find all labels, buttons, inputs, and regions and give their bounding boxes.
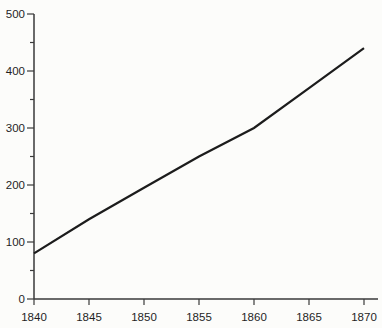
y-tick-label: 300 [6, 122, 25, 134]
line-chart: 0100200300400500184018451850185518601865… [0, 0, 382, 328]
x-tick-label: 1860 [241, 311, 267, 323]
x-tick-label: 1845 [76, 311, 102, 323]
y-tick-label: 100 [6, 236, 25, 248]
y-tick-label: 500 [6, 8, 25, 20]
line-chart-figure: 0100200300400500184018451850185518601865… [0, 0, 382, 328]
x-tick-label: 1850 [131, 311, 157, 323]
y-tick-label: 200 [6, 179, 25, 191]
x-tick-label: 1865 [296, 311, 322, 323]
x-tick-label: 1840 [21, 311, 47, 323]
y-tick-label: 400 [6, 65, 25, 77]
data-line [34, 48, 364, 253]
x-tick-label: 1855 [186, 311, 212, 323]
chart-page: 0100200300400500184018451850185518601865… [0, 0, 382, 328]
x-tick-label: 1870 [351, 311, 377, 323]
y-tick-label: 0 [19, 293, 25, 305]
